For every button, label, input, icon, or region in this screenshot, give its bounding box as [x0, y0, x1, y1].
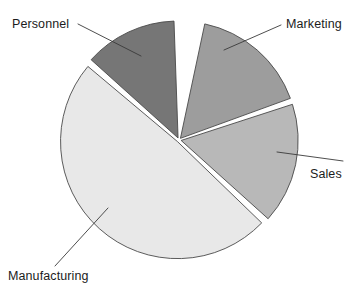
- pie-chart-canvas: [0, 0, 361, 303]
- slice-label-marketing: Marketing: [286, 18, 342, 31]
- pie-chart-figure: Personnel Marketing Sales Manufacturing: [0, 0, 361, 303]
- leader-line-manufacturing: [55, 208, 108, 266]
- pie-slices-group: [61, 21, 299, 259]
- slice-label-manufacturing: Manufacturing: [8, 270, 89, 283]
- slice-label-sales: Sales: [310, 168, 342, 181]
- slice-label-personnel: Personnel: [12, 18, 69, 31]
